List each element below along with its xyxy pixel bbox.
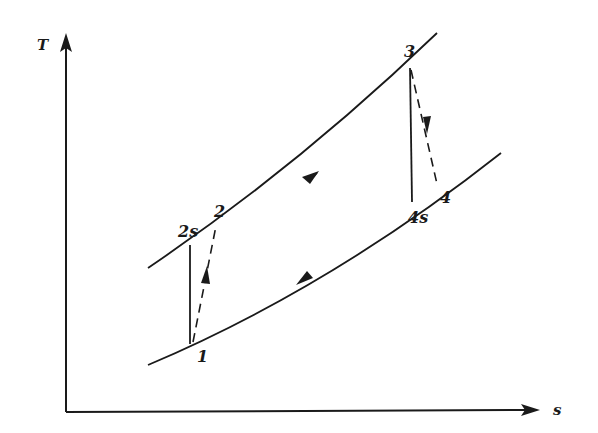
x-axis-label: s [553, 401, 562, 419]
compression-arrow-icon [201, 266, 210, 284]
point-4-label: 4 [440, 188, 451, 207]
point-2s-label: 2s [177, 222, 198, 241]
point-1-label: 1 [197, 347, 208, 366]
x-axis [66, 404, 540, 416]
point-3-label: 3 [404, 42, 415, 61]
actual-expansion-line [411, 70, 437, 184]
actual-compression-line [193, 226, 216, 342]
low-pressure-isobar [148, 153, 501, 365]
isentropic-expansion-line [410, 68, 412, 202]
y-axis-label: T [37, 36, 50, 54]
point-2-label: 2 [213, 202, 225, 221]
point-4s-label: 4s [408, 208, 428, 227]
flow-arrow-2-3-head-icon [302, 171, 319, 184]
ts-diagram: T s 1 2s 2 3 4s 4 [0, 0, 598, 433]
y-axis [60, 33, 72, 412]
